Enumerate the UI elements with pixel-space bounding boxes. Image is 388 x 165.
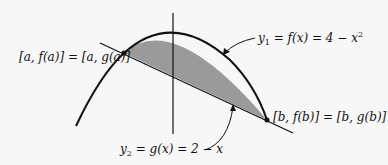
y2-symbol: y bbox=[120, 142, 127, 156]
arrow-to-parabola bbox=[225, 38, 255, 53]
label-line-y2: y2 = g(x) = 2 − x bbox=[120, 142, 223, 158]
point-a-text: [a, f(a)] = [a, g(a)] bbox=[19, 50, 130, 64]
label-point-b: [b, f(b)] = [b, g(b)] bbox=[273, 110, 386, 124]
shaded-region bbox=[124, 41, 267, 120]
y1-expression: = f(x) = 4 − x bbox=[270, 31, 358, 45]
diagram-canvas bbox=[0, 0, 388, 165]
point-b-text: [b, f(b)] = [b, g(b)] bbox=[273, 110, 386, 124]
label-curve-y1: y1 = f(x) = 4 − x2 bbox=[258, 30, 363, 47]
point-b-dot bbox=[265, 118, 270, 123]
y1-exponent: 2 bbox=[358, 30, 363, 39]
y1-symbol: y bbox=[258, 31, 265, 45]
area-between-curves-figure: [a, f(a)] = [a, g(a)] [b, f(b)] = [b, g(… bbox=[0, 0, 388, 165]
label-point-a: [a, f(a)] = [a, g(a)] bbox=[19, 50, 130, 64]
y2-expression: = g(x) = 2 − x bbox=[132, 142, 223, 156]
